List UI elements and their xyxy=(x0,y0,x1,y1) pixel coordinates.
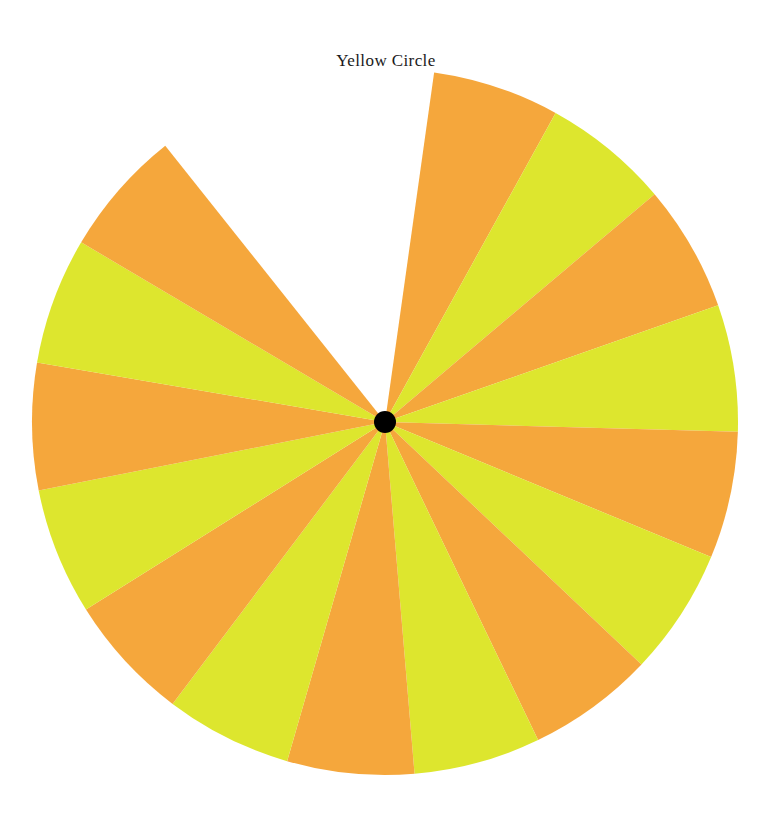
center-hub-dot xyxy=(374,411,396,433)
figure-root: Yellow Circle xyxy=(0,0,772,817)
pie-chart xyxy=(0,0,772,817)
